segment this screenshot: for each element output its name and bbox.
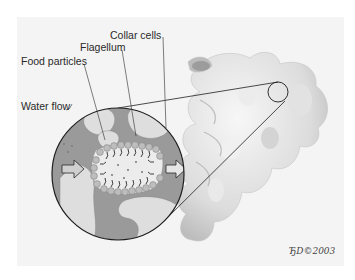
label-flagellum: Flagellum	[80, 42, 126, 53]
artist-signature: ЂD©2003	[289, 246, 335, 256]
magnified-view	[50, 103, 190, 246]
sponge-body	[178, 52, 328, 241]
label-collar-cells: Collar cells	[110, 30, 161, 41]
label-food-particles: Food particles	[21, 56, 87, 67]
sponge-illustration	[0, 0, 355, 280]
label-water-flow: Water flow	[21, 101, 70, 112]
